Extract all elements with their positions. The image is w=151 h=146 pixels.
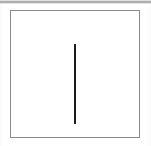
figure-frame bbox=[10, 10, 140, 138]
top-edge-band-artifact bbox=[0, 0, 151, 4]
figure-interior bbox=[11, 11, 139, 137]
figure-canvas bbox=[0, 0, 151, 146]
vertical-line-segment bbox=[74, 44, 76, 124]
right-margin-shade bbox=[149, 4, 151, 146]
left-margin-shade bbox=[0, 4, 2, 146]
